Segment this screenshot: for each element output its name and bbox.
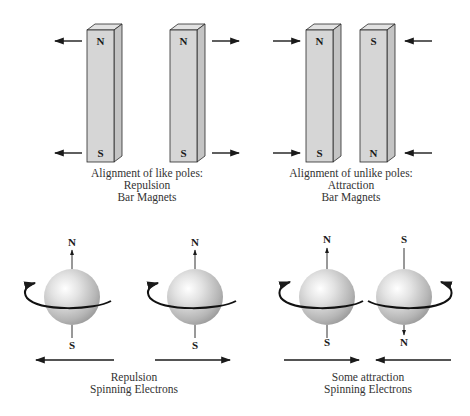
magnetism-diagram: N S N S Alignment of like poles: Repulsi… — [0, 0, 470, 416]
caption-line: Some attraction — [332, 371, 405, 383]
pole-label: S — [401, 233, 407, 245]
bar-magnet: N S — [87, 24, 122, 162]
pole-label: S — [180, 147, 186, 159]
pole-label: N — [180, 35, 188, 47]
caption-line: Spinning Electrons — [324, 383, 412, 396]
spinning-electron: N S — [279, 233, 363, 348]
pole-label: S — [316, 147, 322, 159]
electron-sphere — [299, 269, 355, 325]
pole-label: N — [323, 233, 331, 245]
pole-label: N — [191, 236, 199, 248]
electron-sphere — [376, 269, 432, 325]
pole-label: S — [97, 147, 103, 159]
panel-like-poles: N S N S Alignment of like poles: Repulsi… — [55, 24, 239, 204]
pole-label: N — [400, 336, 408, 348]
panel-repulsion-electrons: N S N S Repulsion Spinning Electrons — [25, 236, 236, 396]
panel-unlike-poles: N S S N Alignment of unlike poles: Attra… — [273, 24, 432, 204]
spinning-electron: N S — [25, 236, 111, 351]
spinning-electron: S N — [368, 233, 452, 348]
pole-label: S — [69, 339, 75, 351]
spinning-electron: N S — [148, 236, 236, 351]
bar-magnet: S N — [360, 24, 395, 162]
caption-line: Bar Magnets — [117, 191, 177, 204]
pole-label: N — [68, 236, 76, 248]
pole-label: N — [370, 147, 378, 159]
bar-magnet: N S — [170, 24, 205, 162]
pole-label: S — [324, 336, 330, 348]
pole-label: N — [97, 35, 105, 47]
caption-line: Spinning Electrons — [90, 383, 178, 396]
bar-magnet: N S — [306, 24, 341, 162]
caption-line: Attraction — [328, 179, 375, 191]
panel-attraction-electrons: N S S N Some attraction Spinning Electro… — [279, 233, 451, 396]
caption-line: Bar Magnets — [321, 191, 381, 204]
pole-label: N — [316, 35, 324, 47]
pole-label: S — [192, 339, 198, 351]
pole-label: S — [370, 35, 376, 47]
electron-sphere — [167, 269, 223, 325]
electron-sphere — [44, 269, 100, 325]
